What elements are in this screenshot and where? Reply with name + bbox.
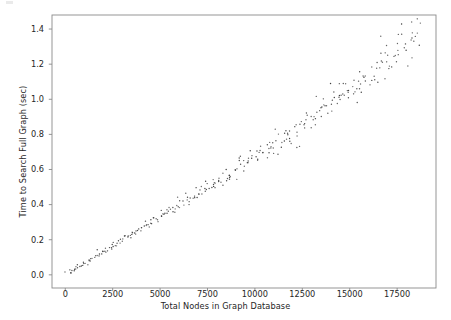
plot-canvas: [0, 0, 451, 320]
x-tick-label: 2500: [90, 289, 136, 299]
scatter-plot-figure: 025005000750010000125001500017500 0.00.2…: [0, 0, 451, 320]
x-tick-label: 7500: [184, 289, 230, 299]
y-axis-ticks: [49, 29, 52, 275]
x-axis-title: Total Nodes in Graph Database: [0, 301, 451, 311]
scatter-points: [64, 18, 421, 274]
x-tick-label: 5000: [137, 289, 183, 299]
x-tick-label: 17500: [374, 289, 420, 299]
y-axis-title: Time to Search Full Graph (sec): [18, 15, 30, 288]
x-tick-label: 12500: [279, 289, 325, 299]
x-tick-label: 15000: [327, 289, 373, 299]
x-tick-label: 0: [42, 289, 88, 299]
x-tick-label: 10000: [232, 289, 278, 299]
